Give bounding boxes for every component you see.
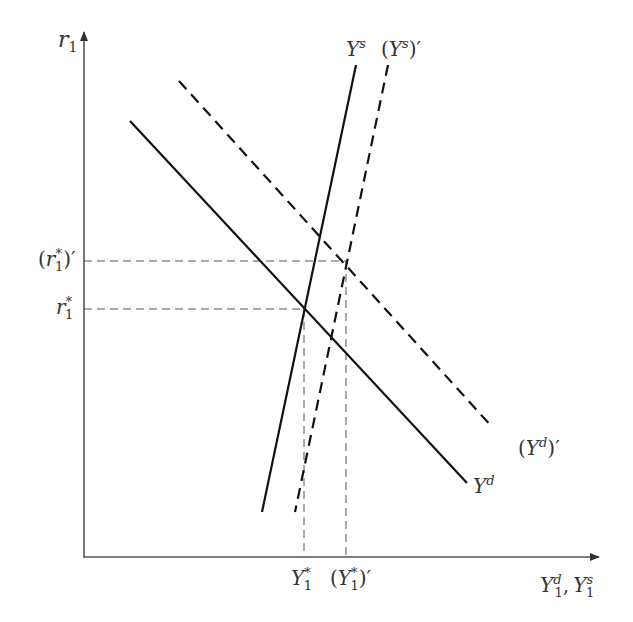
- is-lm-diagram: r1 Ys (Ys)′ (Yd)′ Yd (r*1)′ r*1 Y*1 (Y*1…: [0, 0, 633, 622]
- ys-label: Ys: [346, 36, 366, 61]
- yd-prime-curve: [179, 81, 493, 428]
- ys-prime-label: (Ys)′: [381, 36, 421, 61]
- yd-curve: [130, 121, 467, 483]
- y-star-label: Y*1: [291, 565, 312, 593]
- x-axis-label: Yd1,Ys1: [540, 572, 594, 600]
- yd-prime-label: (Yd)′: [518, 435, 560, 460]
- r-star-label: r*1: [56, 294, 73, 322]
- yd-label: Yd: [473, 473, 495, 498]
- r-star-prime-label: (r*1)′: [38, 246, 76, 274]
- y-star-prime-label: (Y*1)′: [330, 565, 372, 593]
- y-axis-label: r1: [58, 27, 77, 55]
